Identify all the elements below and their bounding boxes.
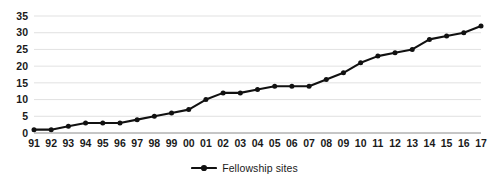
x-axis-tick-label: 03 — [234, 137, 246, 149]
y-axis-tick-label: 35 — [16, 10, 28, 22]
x-axis-tick-label: 98 — [149, 137, 161, 149]
x-axis-tick-label: 17 — [475, 137, 487, 149]
data-point-marker — [238, 90, 243, 95]
x-axis-tick-label: 01 — [200, 137, 212, 149]
data-point-marker — [221, 90, 226, 95]
data-point-marker — [410, 47, 415, 52]
data-point-marker — [375, 54, 380, 59]
data-point-marker — [152, 114, 157, 119]
y-axis-tick-label: 30 — [16, 26, 28, 38]
legend-line-marker-icon — [191, 163, 217, 173]
x-axis-tick-label: 04 — [252, 137, 264, 149]
x-axis-tick-label: 95 — [97, 137, 109, 149]
data-point-marker — [32, 127, 37, 132]
plot-area: 05101520253035 9192939495969798990001020… — [0, 0, 489, 152]
series-line-fellowship-sites — [34, 26, 481, 130]
x-axis-tick-label: 13 — [406, 137, 418, 149]
y-axis-tick-label: 10 — [16, 93, 28, 105]
data-point-marker — [479, 24, 484, 29]
x-axis-tick-label: 05 — [269, 137, 281, 149]
data-point-marker — [358, 60, 363, 65]
data-point-marker — [186, 107, 191, 112]
data-point-marker — [307, 84, 312, 89]
chart-legend: Fellowship sites — [0, 152, 489, 184]
data-point-marker — [289, 84, 294, 89]
x-axis-tick-label: 96 — [114, 137, 126, 149]
data-point-marker — [427, 37, 432, 42]
data-point-marker — [324, 77, 329, 82]
x-axis-tick-label: 02 — [217, 137, 229, 149]
x-axis-tick-label: 14 — [424, 137, 436, 149]
x-axis-tick-label: 15 — [441, 137, 453, 149]
x-axis-tick-label: 93 — [63, 137, 75, 149]
y-axis-ticks: 05101520253035 — [16, 10, 28, 139]
x-axis-tick-label: 12 — [389, 137, 401, 149]
x-axis-tick-label: 10 — [355, 137, 367, 149]
x-axis-ticks: 9192939495969798990001020304050607080910… — [28, 137, 487, 149]
y-axis-tick-label: 25 — [16, 43, 28, 55]
data-point-marker — [393, 50, 398, 55]
y-gridlines — [34, 16, 481, 133]
data-point-marker — [66, 124, 71, 129]
line-chart: 05101520253035 9192939495969798990001020… — [0, 0, 489, 184]
data-point-marker — [49, 127, 54, 132]
x-axis-tick-label: 09 — [338, 137, 350, 149]
series-group — [32, 24, 484, 133]
x-axis-tick-label: 92 — [45, 137, 57, 149]
x-axis-tick-label: 16 — [458, 137, 470, 149]
x-axis-tick-label: 06 — [286, 137, 298, 149]
y-axis-tick-label: 15 — [16, 77, 28, 89]
y-axis-tick-label: 5 — [22, 110, 28, 122]
data-point-marker — [117, 120, 122, 125]
data-point-marker — [341, 70, 346, 75]
legend-entry-label: Fellowship sites — [222, 162, 298, 174]
data-point-marker — [255, 87, 260, 92]
x-axis-tick-label: 91 — [28, 137, 40, 149]
data-point-marker — [135, 117, 140, 122]
chart-canvas: 05101520253035 9192939495969798990001020… — [0, 0, 489, 152]
data-point-marker — [169, 110, 174, 115]
data-point-marker — [203, 97, 208, 102]
data-point-marker — [83, 120, 88, 125]
data-point-marker — [461, 30, 466, 35]
data-point-marker — [100, 120, 105, 125]
x-axis-tick-label: 97 — [131, 137, 143, 149]
data-point-marker — [272, 84, 277, 89]
y-axis-tick-label: 20 — [16, 60, 28, 72]
x-axis-tick-label: 94 — [80, 137, 92, 149]
data-point-marker — [444, 34, 449, 39]
x-axis-tick-label: 11 — [372, 137, 383, 149]
x-axis-tick-label: 07 — [303, 137, 315, 149]
x-axis-tick-label: 00 — [183, 137, 195, 149]
x-axis-tick-label: 99 — [166, 137, 178, 149]
x-axis-tick-label: 08 — [320, 137, 332, 149]
